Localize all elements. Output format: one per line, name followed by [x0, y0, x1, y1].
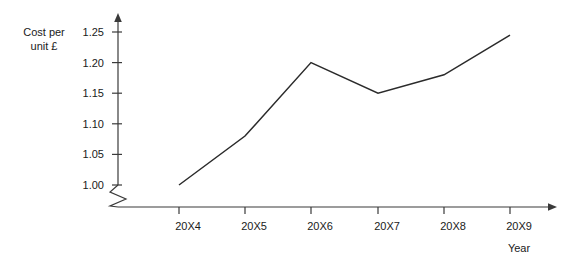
x-tick-label-20x7: 20X7	[374, 220, 400, 232]
x-tick-label-20x5: 20X5	[241, 220, 267, 232]
x-axis-ticks	[179, 207, 510, 214]
data-series-line	[179, 35, 510, 185]
y-axis-break-icon	[110, 185, 126, 207]
y-axis-ticks	[112, 32, 122, 185]
y-axis-tick-labels: 1.00 1.05 1.10 1.15 1.20 1.25	[83, 26, 104, 191]
x-axis-tick-labels: 20X4 20X5 20X6 20X7 20X8 20X9	[175, 220, 532, 232]
x-tick-label-20x6: 20X6	[307, 220, 333, 232]
x-tick-label-20x8: 20X8	[440, 220, 466, 232]
y-tick-label-1-25: 1.25	[83, 26, 104, 38]
y-tick-label-1-20: 1.20	[83, 57, 104, 69]
chart-canvas: 1.00 1.05 1.10 1.15 1.20 1.25 Cost per u…	[0, 0, 568, 258]
x-tick-label-20x9: 20X9	[506, 220, 532, 232]
line-chart: 1.00 1.05 1.10 1.15 1.20 1.25 Cost per u…	[0, 0, 568, 258]
y-tick-label-1-05: 1.05	[83, 148, 104, 160]
y-axis	[114, 13, 122, 185]
y-axis-title-line-1: Cost per	[23, 26, 65, 38]
y-axis-title-line-2: unit £	[31, 40, 58, 52]
y-axis-title: Cost per unit £	[23, 26, 65, 52]
x-axis	[118, 203, 557, 211]
y-axis-arrow-icon	[114, 13, 122, 22]
x-tick-label-20x4: 20X4	[175, 220, 201, 232]
x-axis-arrow-icon	[548, 203, 557, 211]
x-axis-title: Year	[508, 242, 531, 254]
y-tick-label-1-00: 1.00	[83, 179, 104, 191]
y-tick-label-1-10: 1.10	[83, 118, 104, 130]
y-tick-label-1-15: 1.15	[83, 87, 104, 99]
